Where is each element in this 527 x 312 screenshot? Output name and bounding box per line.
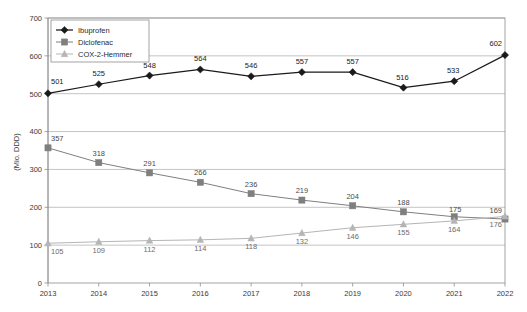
data-point-square [248,191,254,197]
y-tick-label: 200 [29,203,42,212]
x-tick-label: 2018 [294,289,311,298]
y-tick-label: 400 [29,127,42,136]
chart-legend: IbuprofenDiclofenacCOX-2-Hemmer [51,20,149,62]
data-point-square [197,179,203,185]
data-label: 236 [245,180,258,189]
data-label: 291 [143,159,156,168]
data-label: 557 [346,57,359,66]
data-label: 501 [51,77,64,86]
x-tick-label: 2017 [243,289,260,298]
y-tick-label: 300 [29,165,42,174]
data-point-square [96,160,102,166]
x-tick-label: 2016 [192,289,209,298]
data-label: 112 [144,245,156,254]
data-label: 525 [93,69,106,78]
data-label: 105 [51,247,64,256]
data-label: 175 [449,205,462,214]
data-label: 155 [397,228,410,237]
data-label: 146 [346,232,359,241]
y-axis-title: (Mio. DDD) [12,133,21,171]
data-label: 188 [397,198,410,207]
y-tick-label: 700 [29,14,42,23]
data-label: 118 [245,242,257,251]
data-label: 266 [194,168,207,177]
data-point-square [61,39,67,45]
x-tick-label: 2013 [40,289,57,298]
y-tick-label: 100 [29,241,42,250]
legend-label: Ibuprofen [78,26,110,35]
data-label: 109 [93,246,106,255]
data-label: 564 [194,54,207,63]
x-tick-label: 2020 [395,289,412,298]
data-label: 114 [194,244,206,253]
data-label: 318 [93,149,106,158]
y-axis-title-text: (Mio. DDD) [12,133,21,171]
data-label: 357 [51,134,64,143]
data-label: 546 [245,61,258,70]
line-chart: 0100200300400500600700 20132014201520162… [0,0,527,312]
legend-item-ibuprofen[interactable]: Ibuprofen [56,26,110,35]
x-tick-label: 2015 [141,289,158,298]
data-label: 164 [448,225,461,234]
data-label: 602 [489,39,502,48]
data-label: 219 [296,186,309,195]
data-label: 533 [447,66,460,75]
y-tick-label: 600 [29,52,42,61]
legend-label: Diclofenac [78,38,113,47]
x-tick-label: 2021 [446,289,463,298]
y-tick-label: 0 [38,279,42,288]
legend-label: COX-2-Hemmer [78,50,133,59]
x-tick-label: 2022 [497,289,514,298]
data-label: 169 [489,206,502,215]
x-tick-label: 2019 [344,289,361,298]
data-point-square [350,203,356,209]
data-label: 204 [346,192,359,201]
data-point-square [299,197,305,203]
y-tick-label: 500 [29,90,42,99]
chart-container: 0100200300400500600700 20132014201520162… [0,0,527,312]
data-label: 516 [396,73,409,82]
data-point-square [400,209,406,215]
data-label: 176 [489,220,502,229]
data-point-square [45,145,51,151]
x-tick-label: 2014 [90,289,107,298]
data-point-square [146,170,152,176]
data-label: 557 [296,57,309,66]
data-label: 132 [296,237,309,246]
